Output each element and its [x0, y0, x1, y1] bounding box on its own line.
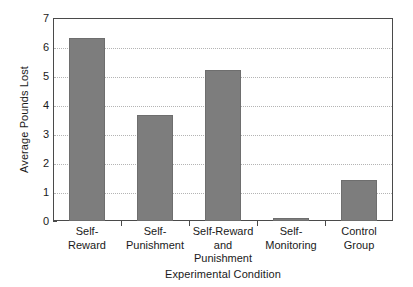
bar-1: [137, 115, 173, 221]
y-tick-label-1: 1: [27, 186, 49, 198]
bar-2: [205, 70, 241, 221]
x-category-label-4: ControlGroup: [319, 225, 399, 252]
x-category-label-line: Group: [319, 239, 399, 253]
y-axis-tick-labels: 01234567: [27, 18, 49, 221]
y-tick-label-0: 0: [27, 215, 49, 227]
bar-0: [69, 38, 105, 221]
y-tick-label-6: 6: [27, 41, 49, 53]
bars-layer: [53, 18, 393, 221]
bar-chart-figure: Average Pounds Lost 01234567 Self-Reward…: [0, 0, 413, 287]
x-axis-title: Experimental Condition: [53, 268, 393, 280]
y-tick-label-7: 7: [27, 12, 49, 24]
y-tick-label-5: 5: [27, 70, 49, 82]
bar-3: [273, 218, 309, 221]
x-category-label-line: Punishment: [183, 252, 263, 266]
y-tick-label-3: 3: [27, 128, 49, 140]
bar-4: [341, 180, 377, 221]
y-tick-mark-0: [53, 221, 57, 222]
y-tick-label-2: 2: [27, 157, 49, 169]
y-tick-label-4: 4: [27, 99, 49, 111]
x-category-label-line: Control: [319, 225, 399, 239]
